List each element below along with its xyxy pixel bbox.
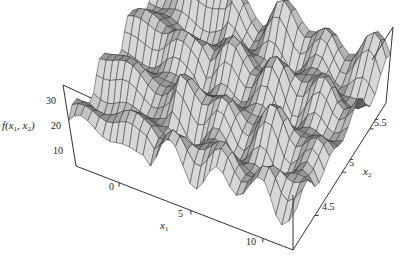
z-tick-10: 10 (53, 145, 63, 156)
surface-mesh (69, 0, 391, 225)
x-tick-0: 0 (109, 181, 114, 192)
y-tick-5: 5 (349, 157, 354, 168)
x-tick-5: 5 (178, 208, 183, 219)
x-axis-label: x1 (159, 219, 169, 233)
surface-plot: f(x1, x2) 30 20 10 0 5 10 x1 4.5 5 5.5 x… (0, 0, 407, 263)
z-tick-20: 20 (51, 120, 61, 131)
x-tick-10: 10 (246, 236, 256, 247)
y-axis-label: x2 (362, 165, 372, 179)
z-axis-line (63, 85, 76, 166)
y-tick-4.5: 4.5 (322, 201, 335, 212)
box-back-right-edge (386, 27, 393, 103)
z-tick-30: 30 (46, 95, 56, 106)
z-axis-label: f(x1, x2) (2, 119, 35, 133)
y-tick-5.5: 5.5 (374, 117, 387, 128)
